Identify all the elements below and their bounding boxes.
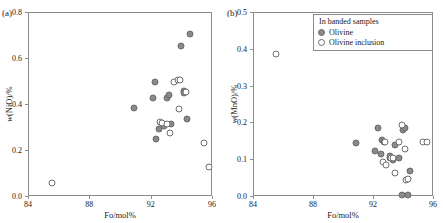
x-axis-title-b: Fo/mol% [327, 210, 359, 220]
x-tick-label: 84 [249, 200, 257, 209]
legend: In banded samples Olivine Olivine inclus… [313, 14, 433, 51]
data-point [396, 138, 403, 145]
y-tick [250, 122, 253, 123]
x-tick-label: 84 [24, 200, 32, 209]
y-tick [250, 49, 253, 50]
x-axis-title-a: Fo/mol% [104, 210, 136, 220]
data-point [390, 154, 397, 161]
panel-a: (a) Fo/mol% w(NiO)/% 848892960.00.20.40.… [0, 0, 221, 223]
data-point [398, 121, 405, 128]
x-tick [89, 196, 90, 199]
figure-root: (a) Fo/mol% w(NiO)/% 848892960.00.20.40.… [0, 0, 443, 223]
y-tick-label: 0.3 [227, 81, 247, 90]
data-point [166, 92, 173, 99]
open-circle-icon [318, 39, 325, 46]
y-tick [250, 12, 253, 13]
data-point [382, 161, 389, 168]
y-tick-label: 0.0 [227, 192, 247, 201]
y-tick [25, 196, 28, 197]
data-point [405, 176, 412, 183]
y-tick [250, 86, 253, 87]
data-point [272, 51, 279, 58]
x-tick-label: 88 [309, 200, 317, 209]
data-point [182, 89, 189, 96]
data-point [166, 130, 173, 137]
x-tick [28, 196, 29, 199]
legend-item-olivine-label: Olivine [329, 28, 353, 37]
data-point [402, 145, 409, 152]
data-point [186, 30, 193, 37]
data-point [391, 170, 398, 177]
data-point [424, 138, 431, 145]
x-tick-label: 92 [147, 200, 155, 209]
x-tick-label: 96 [208, 200, 216, 209]
data-point [48, 180, 55, 187]
y-tick [25, 58, 28, 59]
x-tick-label: 92 [369, 200, 377, 209]
x-tick [151, 196, 152, 199]
data-point [130, 105, 137, 112]
y-tick-label: 0.2 [227, 118, 247, 127]
data-point [201, 139, 208, 146]
data-point [377, 150, 384, 157]
y-tick-label: 0.6 [2, 54, 22, 63]
y-tick-label: 0.1 [227, 155, 247, 164]
panel-b: (b) Fo/mol% w(MnO)/% In banded samples O… [221, 0, 442, 223]
y-tick [25, 150, 28, 151]
y-tick [250, 196, 253, 197]
data-point [406, 167, 413, 174]
x-tick [313, 196, 314, 199]
legend-item-olivine: Olivine [318, 28, 428, 37]
x-tick [253, 196, 254, 199]
y-tick-label: 0.4 [2, 100, 22, 109]
data-point [178, 43, 185, 50]
data-point [382, 138, 389, 145]
data-point [176, 106, 183, 113]
data-point [375, 124, 382, 131]
plot-area-a [28, 12, 212, 196]
y-tick-label: 0.2 [2, 146, 22, 155]
data-point [404, 191, 411, 198]
x-tick [212, 196, 213, 199]
data-point [205, 164, 212, 171]
legend-item-olivine-inclusion: Olivine inclusion [318, 38, 428, 47]
y-tick [250, 159, 253, 160]
y-tick-label: 0.4 [227, 44, 247, 53]
data-point [184, 116, 191, 123]
data-point [153, 136, 160, 143]
data-point [152, 79, 159, 86]
x-tick [373, 196, 374, 199]
y-tick-label: 0.0 [2, 192, 22, 201]
y-tick [25, 12, 28, 13]
legend-title: In banded samples [319, 17, 428, 26]
data-point [149, 94, 156, 101]
y-tick [25, 104, 28, 105]
y-tick-label: 0.5 [227, 8, 247, 17]
legend-item-olivine-inclusion-label: Olivine inclusion [329, 38, 384, 47]
x-tick-label: 88 [85, 200, 93, 209]
x-tick-label: 96 [429, 200, 437, 209]
data-point [163, 121, 170, 128]
filled-circle-icon [318, 29, 325, 36]
data-point [352, 140, 359, 147]
data-point [176, 77, 183, 84]
y-tick-label: 0.8 [2, 8, 22, 17]
x-tick [433, 196, 434, 199]
